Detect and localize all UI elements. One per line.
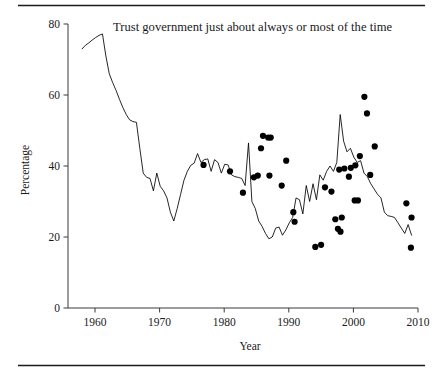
chart-svg: 020406080196019701980199020002010 Trust … xyxy=(0,0,442,372)
data-point-marker xyxy=(240,190,246,196)
data-point-marker xyxy=(200,162,206,168)
x-axis-tick-label: 2010 xyxy=(407,316,430,328)
figure-container: 020406080196019701980199020002010 Trust … xyxy=(0,0,442,372)
data-point-marker xyxy=(227,168,233,174)
x-axis-tick-label: 1970 xyxy=(148,316,171,328)
y-axis-tick-label: 60 xyxy=(49,89,61,101)
data-point-marker xyxy=(364,110,370,116)
x-axis-title: Year xyxy=(239,340,260,352)
data-point-marker xyxy=(352,162,358,168)
data-point-marker xyxy=(318,242,324,248)
data-point-marker xyxy=(279,182,285,188)
data-point-marker xyxy=(346,174,352,180)
data-point-marker xyxy=(328,188,334,194)
chart-title: Trust government just about always or mo… xyxy=(113,20,392,34)
data-point-marker xyxy=(255,172,261,178)
data-point-marker xyxy=(355,197,361,203)
y-axis-title: Percentage xyxy=(19,145,32,195)
data-point-marker xyxy=(322,184,328,190)
data-point-marker xyxy=(361,94,367,100)
data-point-marker xyxy=(357,153,363,159)
x-axis-tick-label: 1980 xyxy=(213,316,236,328)
data-point-marker xyxy=(339,214,345,220)
data-point-marker xyxy=(332,216,338,222)
y-axis-tick-label: 0 xyxy=(54,302,60,314)
data-point-marker xyxy=(372,143,378,149)
x-axis-tick-label: 2000 xyxy=(342,316,365,328)
data-point-marker xyxy=(290,209,296,215)
data-point-marker xyxy=(283,158,289,164)
data-point-marker xyxy=(408,245,414,251)
data-point-marker xyxy=(367,172,373,178)
data-point-marker xyxy=(258,145,264,151)
y-axis-tick-label: 20 xyxy=(49,231,61,243)
data-point-marker xyxy=(266,172,272,178)
data-point-marker xyxy=(268,135,274,141)
x-axis-tick-label: 1990 xyxy=(277,316,300,328)
data-point-marker xyxy=(292,219,298,225)
y-axis-tick-label: 80 xyxy=(49,18,61,30)
x-axis-tick-label: 1960 xyxy=(84,316,107,328)
data-point-marker xyxy=(312,244,318,250)
data-point-marker xyxy=(341,165,347,171)
y-axis-tick-label: 40 xyxy=(49,160,61,172)
data-point-marker xyxy=(408,214,414,220)
data-point-marker xyxy=(337,229,343,235)
data-point-marker xyxy=(403,200,409,206)
data-point-marker xyxy=(336,166,342,172)
